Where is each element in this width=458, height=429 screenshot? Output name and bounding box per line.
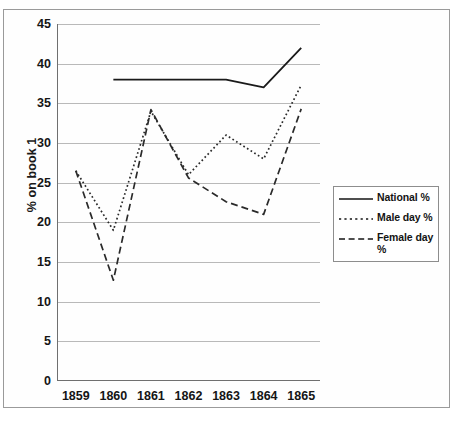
x-axis-tick-labels: 1859186018611862186318641865 bbox=[57, 389, 320, 409]
plot-svg bbox=[57, 24, 320, 381]
data-series bbox=[76, 48, 301, 280]
y-tick-label: 5 bbox=[25, 334, 51, 348]
chart-figure: % on book 1 051015202530354045 185918601… bbox=[0, 0, 458, 429]
y-tick-label: 40 bbox=[25, 57, 51, 71]
gridlines bbox=[57, 25, 320, 342]
y-tick-label: 20 bbox=[25, 215, 51, 229]
legend-entry-national: National % bbox=[339, 192, 434, 205]
y-tick-label: 10 bbox=[25, 295, 51, 309]
series-line bbox=[113, 48, 301, 88]
series-line bbox=[76, 85, 301, 230]
legend-label-male-day: Male day % bbox=[377, 212, 433, 224]
y-tick-label: 45 bbox=[25, 17, 51, 31]
legend-label-national: National % bbox=[377, 192, 430, 204]
plot-area bbox=[57, 24, 320, 381]
axis-lines bbox=[57, 24, 320, 381]
solid-line-icon bbox=[339, 193, 373, 205]
y-tick-label: 25 bbox=[25, 176, 51, 190]
y-tick-label: 15 bbox=[25, 255, 51, 269]
y-tick-label: 0 bbox=[25, 374, 51, 388]
legend-label-female-day: Female day % bbox=[377, 232, 434, 255]
x-tick-label: 1865 bbox=[278, 389, 324, 403]
series-line bbox=[76, 109, 301, 280]
legend-entry-male-day: Male day % bbox=[339, 212, 434, 225]
y-tick-label: 30 bbox=[25, 136, 51, 150]
legend-entry-female-day: Female day % bbox=[339, 232, 434, 255]
chart-legend: National % Male day % Female day % bbox=[333, 186, 439, 262]
dotted-line-icon bbox=[339, 213, 373, 225]
dashed-line-icon bbox=[339, 233, 373, 245]
y-axis-tick-labels: 051015202530354045 bbox=[20, 24, 51, 381]
y-tick-label: 35 bbox=[25, 96, 51, 110]
